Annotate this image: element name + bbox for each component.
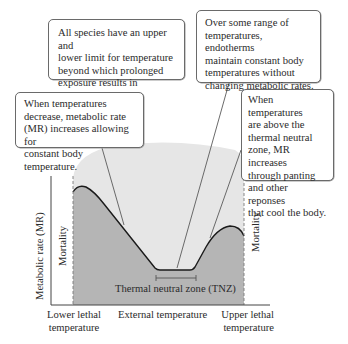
tnz-diagram: All species have an upper and lower limi… [0, 0, 348, 344]
upper-lethal-label: Upper lethal temperature [216, 309, 274, 334]
lower-lethal-label: Lower lethal temperature [45, 309, 103, 334]
callout-cold-response: When temperatures decrease, metabolic ra… [15, 92, 144, 148]
callout-tnz-constant: Over some range of temperatures, endothe… [196, 10, 321, 83]
y-axis-label: Metabolic rate (MR) [34, 212, 45, 300]
tnz-label: Thermal neutral zone (TNZ) [115, 283, 236, 296]
callout-heat-response: When temperatures are above the thermal … [241, 89, 334, 181]
x-axis-label: External temperature [118, 309, 207, 322]
mortality-left-label: Mortality [57, 226, 68, 266]
callout-lethal-limits: All species have an upper and lower limi… [48, 19, 185, 80]
mortality-right-label: Mortality [250, 212, 261, 252]
